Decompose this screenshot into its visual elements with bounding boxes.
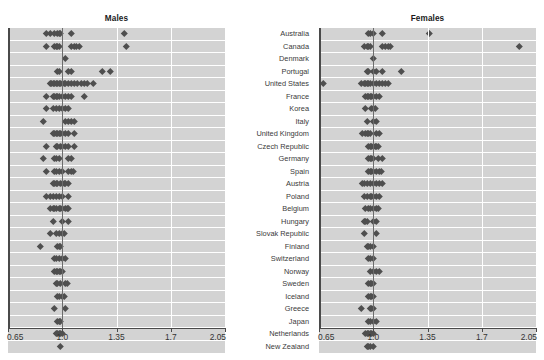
data-point-marker [123,43,129,49]
country-label: United States [231,78,311,91]
plot-rows-females [319,28,536,328]
data-point-marker [47,231,53,237]
data-point-marker [65,218,71,224]
plot-row [319,266,536,279]
plot-row [319,291,536,304]
data-point-marker [57,344,63,350]
axis-tick-label: 1.7 [476,332,488,342]
plot-row [8,266,225,279]
plot-row [8,28,225,41]
plot-panel-males [8,28,225,328]
country-label: Switzerland [231,253,311,266]
plot-row [8,216,225,229]
data-point-marker [71,118,77,124]
country-label: France [231,91,311,104]
data-point-marker [65,106,71,112]
data-point-marker [65,181,71,187]
data-point-marker [373,231,379,237]
plot-row [319,128,536,141]
panel-title-males: Males [8,14,225,23]
country-label: Iceland [231,291,311,304]
data-point-marker [516,43,522,49]
x-axis-females: 0.651.01.351.72.05 [319,328,536,342]
axis-tick-label: 1.35 [419,332,435,342]
data-point-marker [426,31,432,37]
plot-row [8,91,225,104]
figure-footnote [330,350,544,360]
plot-row [319,141,536,154]
axis-tick-label: 2.05 [521,332,537,342]
plot-row [8,203,225,216]
plot-rows-males [8,28,225,328]
axis-tick-label: 1.35 [108,332,124,342]
country-label: Portugal [231,66,311,79]
data-point-marker [51,306,57,312]
plot-row [319,303,536,316]
data-point-marker [99,68,105,74]
data-point-marker [370,256,376,262]
country-label: Poland [231,191,311,204]
country-label-column: AustraliaCanadaDenmarkPortugalUnited Sta… [231,28,311,328]
data-point-marker [65,193,71,199]
data-point-marker [56,156,62,162]
plot-row [319,241,536,254]
plot-row [319,91,536,104]
plot-row [8,228,225,241]
data-point-marker [370,56,376,62]
country-label: Germany [231,153,311,166]
plot-row [8,191,225,204]
data-point-marker [40,118,46,124]
plot-row [319,203,536,216]
data-point-marker [44,143,50,149]
data-point-marker [320,81,326,87]
axis-tick-label: 1.0 [56,332,68,342]
plot-row [319,116,536,129]
plot-row [8,278,225,291]
country-label: Sweden [231,278,311,291]
plot-row [319,28,536,41]
plot-row [8,116,225,129]
data-point-marker [370,31,376,37]
x-axis-males: 0.651.01.351.72.05 [8,328,225,342]
gridline [225,28,226,328]
country-label: Hungary [231,216,311,229]
country-label: New Zealand [231,341,311,354]
data-point-marker [37,243,43,249]
data-point-marker [358,306,364,312]
plot-row [8,41,225,54]
data-point-marker [44,43,50,49]
plot-row [319,278,536,291]
data-point-marker [121,31,127,37]
plot-row [319,41,536,54]
country-label: United Kingdom [231,128,311,141]
data-point-marker [379,68,385,74]
axis-tick-label: 1.7 [165,332,177,342]
data-point-marker [361,231,367,237]
country-label: Canada [231,41,311,54]
data-point-marker [376,131,382,137]
data-point-marker [62,256,68,262]
plot-row [8,153,225,166]
country-label: Korea [231,103,311,116]
plot-row [319,78,536,91]
plot-row [319,166,536,179]
data-point-marker [71,131,77,137]
plot-row [319,178,536,191]
plot-row [319,53,536,66]
plot-row [8,141,225,154]
data-point-marker [107,68,113,74]
data-point-marker [379,31,385,37]
plot-row [319,103,536,116]
axis-tick-label: 0.65 [318,332,334,342]
plot-row [8,341,225,354]
country-label: Austria [231,178,311,191]
plot-row [8,66,225,79]
plot-panel-females [319,28,536,328]
data-point-marker [90,81,96,87]
plot-row [8,241,225,254]
plot-row [319,66,536,79]
plot-row [319,191,536,204]
data-point-marker [379,181,385,187]
data-point-marker [398,68,404,74]
plot-row [319,253,536,266]
